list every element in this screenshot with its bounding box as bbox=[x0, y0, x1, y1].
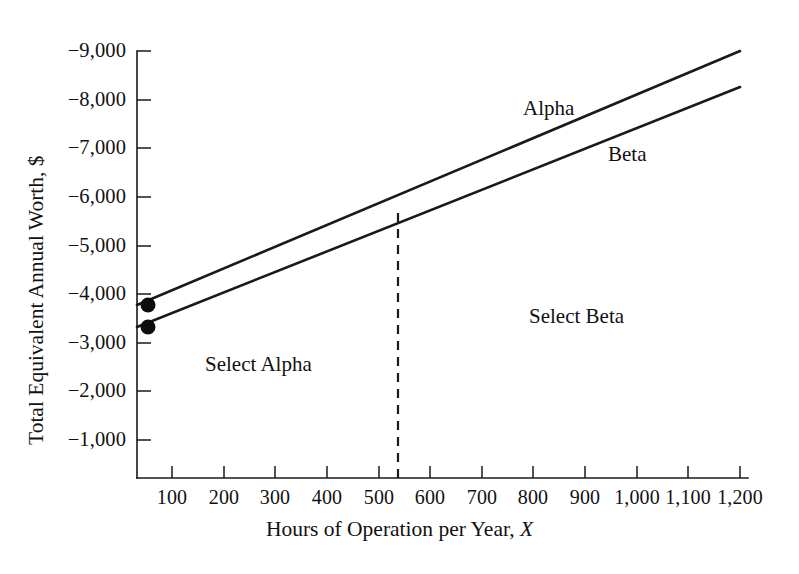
beta-start-marker bbox=[141, 320, 156, 335]
y-axis-title: Total Equivalent Annual Worth, $ bbox=[26, 155, 48, 445]
select-beta-region-label: Select Beta bbox=[529, 306, 624, 327]
chart-figure: −9,000 −8,000 −7,000 −6,000 −5,000 −4,00… bbox=[0, 0, 799, 574]
beta-series-line bbox=[137, 87, 740, 327]
y-axis-ticks bbox=[137, 51, 151, 440]
y-tick-label-9000: −9,000 bbox=[20, 40, 126, 61]
x-axis-title-variable: X bbox=[520, 517, 533, 541]
x-axis-title-text: Hours of Operation per Year, bbox=[266, 517, 515, 541]
alpha-series-line bbox=[137, 51, 740, 305]
select-alpha-region-label: Select Alpha bbox=[205, 354, 312, 375]
x-tick-label-1200: 1,200 bbox=[703, 487, 777, 507]
alpha-series-label: Alpha bbox=[523, 98, 574, 119]
y-tick-label-8000: −8,000 bbox=[20, 89, 126, 110]
x-axis-title: Hours of Operation per Year, X bbox=[0, 519, 799, 541]
x-axis-ticks bbox=[172, 466, 740, 478]
beta-series-label: Beta bbox=[608, 144, 646, 165]
alpha-start-marker bbox=[141, 298, 156, 313]
